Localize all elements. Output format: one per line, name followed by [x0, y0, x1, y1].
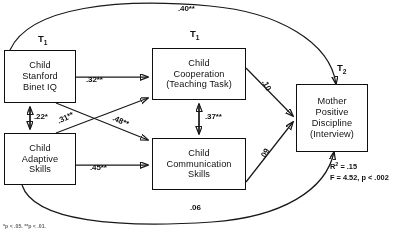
node-mother-positive-discipline: Mother Positive Discipline (Interview) [296, 84, 368, 152]
coefficient-iq-with-adaptive: .22* [34, 112, 48, 121]
node-child-communication-skills: Child Communication Skills [152, 138, 246, 190]
node-line: Skills [29, 164, 51, 175]
node-line: Mother [317, 96, 346, 107]
node-child-stanford-binet-iq: Child Stanford Binet IQ [4, 50, 76, 103]
node-line: Child [29, 143, 50, 154]
r-squared-line: R2 = .15 [330, 161, 389, 173]
node-child-adaptive-skills: Child Adaptive Skills [4, 133, 76, 185]
coefficient-cooperation-with-communication: .37** [205, 112, 222, 121]
node-line: Communication [166, 159, 231, 170]
time-label-t1-left: T1 [38, 33, 47, 46]
node-line: Binet IQ [23, 82, 57, 93]
node-line: Child [188, 148, 209, 159]
diagram-canvas: T1 T1 T2 Child Stanford Binet IQ Child A… [0, 0, 413, 232]
significance-footnote: *p < .05. **p < .01. [3, 223, 46, 229]
f-statistic-line: F = 4.52, p < .002 [330, 173, 389, 184]
node-line: Discipline [312, 118, 352, 129]
coefficient-iq-to-cooperation: .32** [86, 75, 103, 84]
time-label-t1-middle: T1 [190, 28, 199, 41]
node-line: Adaptive [22, 154, 59, 165]
node-line: Cooperation [173, 69, 224, 80]
node-line: Child [188, 58, 209, 69]
time-label-t2-right: T2 [337, 62, 346, 75]
node-child-cooperation: Child Cooperation (Teaching Task) [152, 48, 246, 100]
path-cooperation-to-mother [246, 68, 293, 116]
node-line: Child [29, 60, 50, 71]
coefficient-iq-to-mother-arc: .40** [178, 4, 195, 13]
node-line: (Teaching Task) [166, 79, 232, 90]
node-line: Skills [188, 169, 210, 180]
node-line: Stanford [22, 71, 58, 82]
model-statistics: R2 = .15 F = 4.52, p < .002 [330, 161, 389, 184]
coefficient-adaptive-to-mother-arc: .06 [190, 203, 201, 212]
coefficient-adaptive-to-communication: .45** [90, 163, 107, 172]
node-line: Positive [316, 107, 349, 118]
node-line: (Interview) [310, 129, 354, 140]
